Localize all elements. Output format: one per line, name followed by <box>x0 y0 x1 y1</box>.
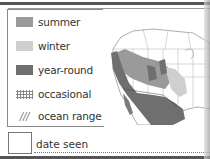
legend-item-winter: winter <box>16 40 70 52</box>
legend-label: ocean range <box>38 110 101 122</box>
legend-label: summer <box>38 16 80 28</box>
summer-swatch-icon <box>16 17 33 27</box>
dotted-swatch-icon <box>16 90 33 99</box>
legend-label: occasional <box>38 88 91 100</box>
legend-label: winter <box>38 40 70 52</box>
range-legend: summer winter year-round occasional /// … <box>7 9 104 127</box>
legend-item-occasional: occasional <box>16 88 91 100</box>
legend-item-summer: summer <box>16 16 80 28</box>
top-border <box>0 2 210 5</box>
page-edge-shadow <box>204 0 210 159</box>
date-seen-label: date seen <box>36 138 88 150</box>
range-map <box>103 9 210 125</box>
date-seen-line[interactable] <box>34 152 210 153</box>
hatched-swatch-icon: /// <box>16 111 33 121</box>
date-seen-checkbox[interactable] <box>8 132 32 154</box>
year-round-swatch-icon <box>16 65 33 75</box>
legend-item-year-round: year-round <box>16 64 93 76</box>
legend-label: year-round <box>38 64 93 76</box>
legend-item-ocean-range: /// ocean range <box>16 110 101 122</box>
bottom-border <box>0 156 210 159</box>
winter-swatch-icon <box>16 41 33 51</box>
